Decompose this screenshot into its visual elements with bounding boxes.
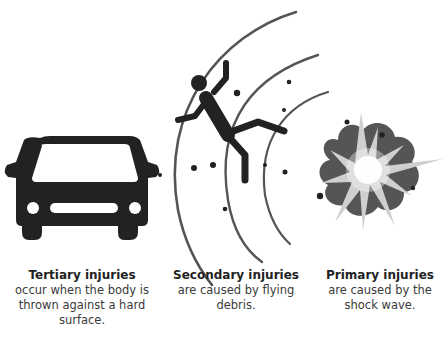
caption-primary-injuries: Primary injuries are caused by the shock… — [318, 268, 442, 313]
caption-description: are caused by flying debris. — [172, 283, 300, 313]
shock-wave-arcs-icon — [175, 12, 328, 285]
caption-title: Primary injuries — [318, 268, 442, 283]
caption-title: Tertiary injuries — [2, 268, 162, 283]
caption-tertiary-injuries: Tertiary injuries occur when the body is… — [2, 268, 162, 328]
caption-title: Secondary injuries — [172, 268, 300, 283]
caption-description: are caused by the shock wave. — [318, 283, 442, 313]
car-icon — [5, 136, 160, 240]
explosion-icon — [317, 112, 443, 230]
caption-description: occur when the body is thrown against a … — [2, 283, 162, 328]
caption-secondary-injuries: Secondary injuries are caused by flying … — [172, 268, 300, 313]
